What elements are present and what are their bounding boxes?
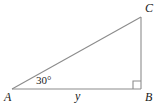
side-length-label-y: y: [75, 90, 80, 102]
vertex-label-b: B: [145, 91, 152, 103]
vertex-label-c: C: [145, 2, 153, 14]
right-triangle-figure: A B C y 30°: [0, 0, 158, 104]
angle-label-a: 30°: [36, 75, 51, 86]
vertex-label-a: A: [4, 91, 11, 103]
right-angle-marker-icon: [133, 81, 141, 89]
side-ac-hypotenuse: [12, 17, 141, 89]
